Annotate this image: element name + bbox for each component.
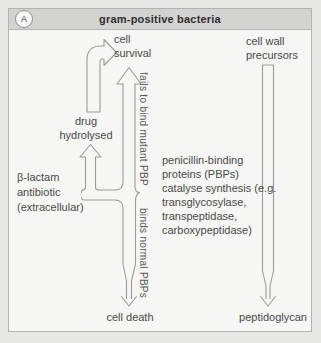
annotation-pbp-function: penicillin-binding proteins (PBPs) catal… bbox=[162, 153, 276, 237]
node-peptidoglycan: peptidoglycan bbox=[226, 310, 320, 324]
node-cell-death: cell death bbox=[94, 310, 166, 324]
curved-arrow-to-cell-survival bbox=[87, 40, 117, 113]
node-cell-survival: cell survival bbox=[114, 32, 151, 60]
diagram-panel-gram-positive: gram-positive bacteria A cell survival c… bbox=[0, 0, 321, 343]
panel-label-letter: A bbox=[21, 14, 27, 24]
node-cell-wall-precursors: cell wall precursors bbox=[246, 34, 298, 62]
down-arrowhead-to-peptidoglycan bbox=[261, 297, 276, 307]
node-drug-hydrolysed: drug hydrolysed bbox=[50, 114, 122, 142]
arrow-label-binds-normal-pbps: binds normal PBPs bbox=[137, 208, 149, 304]
channel-bottom-wall bbox=[82, 198, 127, 299]
panel-label-badge: A bbox=[15, 10, 33, 28]
arrow-label-fails-to-bind-mutant-pbp: fails to bind mutant PBP bbox=[137, 72, 149, 192]
down-arrowhead-to-cell-death bbox=[122, 297, 137, 307]
node-beta-lactam-antibiotic: β-lactam antibiotic (extracellular) bbox=[17, 170, 84, 215]
